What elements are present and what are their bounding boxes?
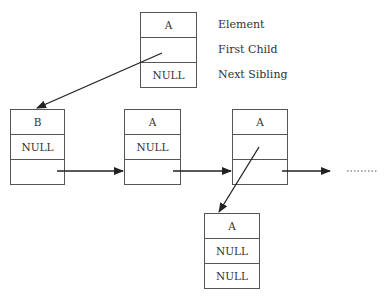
node-a1-first-child-cell: NULL xyxy=(137,141,169,153)
root-node: A NULL xyxy=(141,13,197,88)
node-grandchild-a: A NULL NULL xyxy=(205,214,260,289)
tree-diagram: A NULL Element First Child Next Sibling … xyxy=(0,0,388,298)
node-a1: A NULL xyxy=(125,110,181,185)
node-a2: A xyxy=(233,110,288,185)
grandchild-next-sibling-cell: NULL xyxy=(216,270,248,282)
node-a1-element-cell: A xyxy=(148,116,157,128)
legend-label-element: Element xyxy=(218,18,265,31)
grandchild-element-cell: A xyxy=(227,220,236,232)
node-b: B NULL xyxy=(11,110,65,185)
node-b-element-cell: B xyxy=(34,116,42,128)
root-next-sibling-cell: NULL xyxy=(153,69,185,81)
field-legend: Element First Child Next Sibling xyxy=(218,18,288,81)
node-b-first-child-cell: NULL xyxy=(22,141,54,153)
legend-label-first-child: First Child xyxy=(218,43,278,56)
root-element-cell: A xyxy=(164,19,173,31)
grandchild-first-child-cell: NULL xyxy=(216,245,248,257)
legend-label-next-sibling: Next Sibling xyxy=(218,68,288,81)
node-a2-element-cell: A xyxy=(255,116,264,128)
